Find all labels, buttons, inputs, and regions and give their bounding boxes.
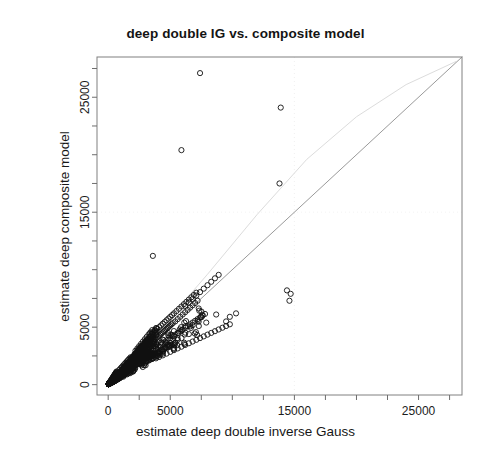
y-axis-tick-label: 15000 [78, 195, 92, 229]
data-points-layer [106, 71, 293, 387]
data-point-outlier [227, 314, 232, 319]
x-axis-tick-label: 15000 [278, 404, 312, 418]
data-point-outlier [288, 291, 293, 296]
data-point-outlier [278, 105, 283, 110]
y-axis-label: estimate deep composite model [57, 57, 72, 397]
x-axis-tick-label: 5000 [157, 404, 184, 418]
data-point-outlier [197, 71, 202, 76]
x-axis-label: estimate deep double inverse Gauss [0, 424, 491, 439]
data-point-outlier [214, 312, 219, 317]
x-axis-tick-label: 0 [105, 404, 112, 418]
y-axis-tick-label: 25000 [78, 80, 92, 114]
x-axis-tick-label: 25000 [402, 404, 436, 418]
data-point-outlier [204, 320, 209, 325]
data-point-outlier [233, 311, 238, 316]
scatter-plot-figure: deep double IG vs. composite model 05000… [0, 0, 491, 469]
data-point-outlier [277, 181, 282, 186]
data-point-outlier [150, 253, 155, 258]
data-point-outlier [287, 298, 292, 303]
plot-canvas: 050001500025000050001500025000 [0, 0, 491, 469]
y-axis-tick-label: 0 [78, 381, 92, 388]
data-point [216, 272, 221, 277]
data-point-outlier [179, 148, 184, 153]
y-axis-tick-label: 5000 [78, 314, 92, 341]
